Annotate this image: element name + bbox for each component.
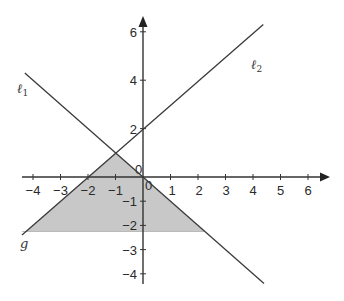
x-tick-label: 4: [249, 183, 256, 198]
x-tick-label: 6: [304, 183, 311, 198]
x-tick-label: 3: [222, 183, 229, 198]
label-l2: ℓ2: [251, 57, 262, 74]
y-tick-label: −2: [122, 218, 137, 233]
y-tick-label: 6: [130, 25, 137, 40]
y-tick-label: −3: [122, 243, 137, 258]
x-tick-label: −1: [108, 183, 123, 198]
y-tick-label: −4: [122, 267, 137, 282]
y-tick-label: −1: [122, 194, 137, 209]
y-tick-label: 4: [130, 73, 137, 88]
x-tick-label: −2: [81, 183, 96, 198]
x-axis-arrow-icon: [320, 173, 330, 182]
x-tick-label: 5: [277, 183, 284, 198]
x-tick-label: 2: [195, 183, 202, 198]
coordinate-plane: −4 −3 −2 −1 1 2 3 4 5 6 6 4 2 −1 −2 −3 −…: [0, 0, 344, 301]
label-g: g: [20, 236, 28, 251]
y-axis-arrow-icon: [139, 16, 148, 27]
y-tick-label: 2: [130, 122, 137, 137]
x-tick-label: −4: [26, 183, 41, 198]
x-tick-label: 1: [168, 183, 175, 198]
x-tick-label: −3: [53, 183, 68, 198]
label-l1: ℓ1: [17, 81, 28, 98]
